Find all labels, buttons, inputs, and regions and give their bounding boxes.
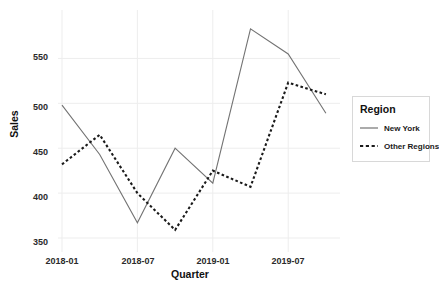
legend-item-new-york[interactable]: New York (359, 121, 420, 135)
x-tick-label: 2019-01 (183, 256, 243, 266)
legend-label: New York (384, 124, 420, 133)
y-tick-label: 400 (14, 192, 48, 202)
series-lines (62, 29, 326, 230)
legend-item-other-regions[interactable]: Other Regions (359, 139, 439, 153)
x-tick-label: 2018-07 (108, 256, 168, 266)
legend: Region New York Other Regions (352, 96, 430, 162)
y-axis-title: Sales (8, 94, 20, 154)
y-tick-label: 550 (14, 52, 48, 62)
x-tick-label: 2018-01 (32, 256, 92, 266)
x-axis-title: Quarter (40, 268, 340, 280)
legend-key-dashed-line-icon (359, 141, 379, 151)
legend-key-solid-line-icon (359, 123, 379, 133)
series-line (62, 29, 326, 223)
legend-label: Other Regions (384, 142, 439, 151)
series-line (62, 83, 326, 230)
grid-lines (58, 10, 340, 252)
y-tick-label: 350 (14, 237, 48, 247)
x-tick-label: 2019-07 (258, 256, 318, 266)
legend-title: Region (360, 103, 396, 115)
